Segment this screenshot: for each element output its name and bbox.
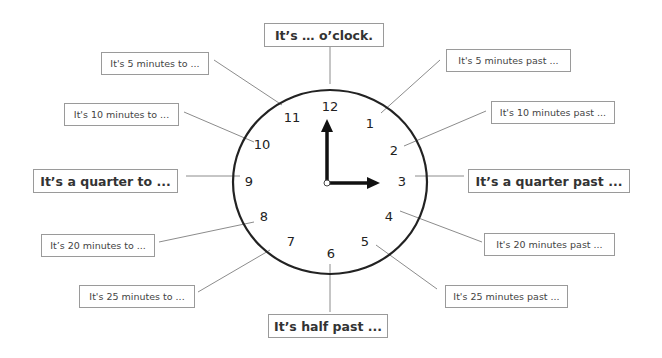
leader-line-five-past bbox=[381, 60, 440, 113]
label-quarter-to: It’s a quarter to ... bbox=[33, 169, 178, 193]
leader-line-twentyfive-past bbox=[376, 245, 437, 289]
label-five-to: It's 5 minutes to ... bbox=[101, 52, 209, 75]
leader-line-twentyfive-to bbox=[198, 250, 270, 292]
clock-number-5: 5 bbox=[361, 234, 369, 249]
label-twenty-past: It's 20 minutes past ... bbox=[484, 233, 615, 256]
clock-number-12: 12 bbox=[322, 99, 339, 114]
clock-number-2: 2 bbox=[390, 143, 398, 158]
clock-number-11: 11 bbox=[284, 110, 301, 125]
label-twenty-to: It’s 20 minutes to ... bbox=[41, 234, 155, 257]
clock-number-3: 3 bbox=[398, 174, 406, 189]
clock-number-7: 7 bbox=[287, 234, 295, 249]
clock-number-10: 10 bbox=[254, 137, 271, 152]
clock-number-1: 1 bbox=[366, 116, 374, 131]
clock-center-pin bbox=[324, 180, 330, 186]
leader-line-twenty-to bbox=[159, 222, 254, 242]
leader-line-twenty-past bbox=[400, 211, 482, 242]
minute-hand-arrowhead bbox=[367, 177, 380, 189]
label-twentyfive-to: It's 25 minutes to ... bbox=[79, 285, 195, 308]
hour-hand-arrowhead bbox=[321, 119, 333, 132]
label-oclock: It’s … o’clock. bbox=[264, 23, 384, 47]
label-half-past: It’s half past ... bbox=[268, 314, 388, 338]
clock-number-9: 9 bbox=[245, 174, 253, 189]
leader-line-five-to bbox=[214, 60, 282, 105]
label-five-past: It's 5 minutes past ... bbox=[446, 49, 571, 72]
label-ten-to: It's 10 minutes to ... bbox=[64, 103, 179, 126]
clock-number-4: 4 bbox=[385, 209, 393, 224]
leader-line-ten-to bbox=[184, 112, 254, 142]
label-twentyfive-past: It's 25 minutes past ... bbox=[445, 285, 568, 308]
label-quarter-past: It’s a quarter past ... bbox=[468, 169, 630, 193]
label-ten-past: It's 10 minutes past ... bbox=[491, 101, 615, 124]
clock-diagram: 12 1 2 3 4 5 6 7 8 9 10 11 It’s … o’cloc… bbox=[0, 0, 662, 358]
clock-number-8: 8 bbox=[260, 209, 268, 224]
clock-number-6: 6 bbox=[327, 246, 335, 261]
